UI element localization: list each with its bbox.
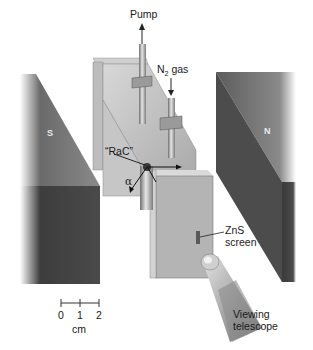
rac-source-label: “RaC”	[105, 146, 133, 157]
zns-label-line2: screen	[225, 237, 257, 248]
south-magnet	[20, 74, 100, 284]
zns-screen	[196, 231, 200, 244]
n2-gas-label: N2 gas	[157, 64, 188, 79]
scale-bar	[61, 299, 99, 307]
pump-label: Pump	[130, 9, 157, 20]
scale-unit: cm	[72, 324, 86, 335]
diagram-graphics	[0, 0, 313, 350]
telescope-label-line1: Viewing	[233, 309, 270, 320]
scale-tick-0: 0	[58, 310, 64, 321]
scale-tick-2: 2	[96, 310, 102, 321]
north-magnet	[216, 72, 296, 282]
scale-tick-1: 1	[77, 310, 83, 321]
alpha-label: α	[125, 176, 132, 187]
rutherford-apparatus-diagram: Pump N2 gas “RaC” α ZnS screen Viewing t…	[0, 0, 313, 350]
south-pole-label: S	[47, 128, 53, 138]
zns-label-line1: ZnS	[225, 225, 244, 236]
pump-arrow-icon	[139, 23, 145, 30]
north-pole-label: N	[264, 126, 271, 136]
telescope-label-line2: telescope	[233, 321, 278, 332]
gas-inlet-arrow-icon	[168, 90, 174, 96]
